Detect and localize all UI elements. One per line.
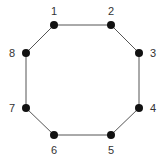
node-1 — [50, 21, 58, 29]
node-label-1: 1 — [51, 5, 57, 17]
node-label-6: 6 — [51, 144, 57, 156]
edge-8-1 — [26, 25, 54, 53]
node-label-2: 2 — [108, 5, 114, 17]
node-label-5: 5 — [108, 144, 114, 156]
node-label-7: 7 — [9, 102, 15, 114]
edge-2-3 — [111, 25, 139, 53]
node-label-3: 3 — [150, 47, 156, 59]
octagon-cycle-graph: 12345678 — [0, 0, 164, 161]
node-label-4: 4 — [150, 102, 156, 114]
node-7 — [22, 104, 30, 112]
edge-4-5 — [111, 108, 139, 135]
node-4 — [135, 104, 143, 112]
node-3 — [135, 49, 143, 57]
node-5 — [107, 131, 115, 139]
node-6 — [50, 131, 58, 139]
node-8 — [22, 49, 30, 57]
node-label-8: 8 — [9, 47, 15, 59]
node-2 — [107, 21, 115, 29]
edges — [26, 25, 139, 135]
edge-6-7 — [26, 108, 54, 135]
node-labels: 12345678 — [9, 5, 156, 156]
